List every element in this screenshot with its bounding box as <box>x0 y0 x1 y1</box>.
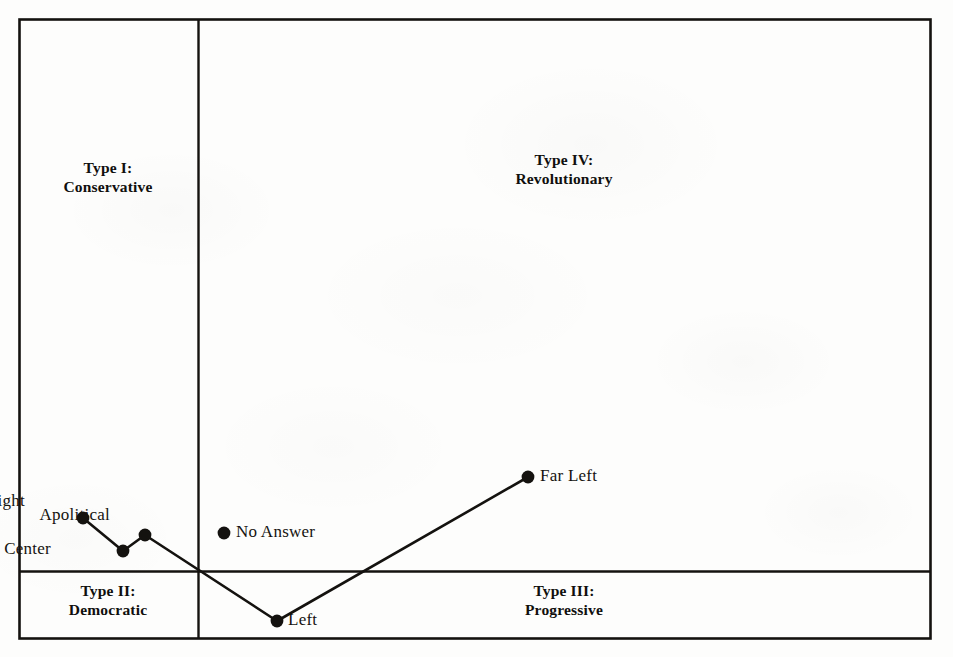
axes-group <box>19 19 930 638</box>
data-point-marker <box>271 615 284 628</box>
data-point-marker <box>117 545 130 558</box>
quadrant-label-line1: Type II: <box>69 581 147 600</box>
quadrant-label-line1: Type IV: <box>515 150 612 169</box>
data-point-marker <box>139 529 152 542</box>
data-point-label: Far Left <box>540 466 597 486</box>
quadrant-label-line2: Revolutionary <box>515 169 612 188</box>
data-point-label: Center <box>4 539 51 559</box>
quadrant-label-type-2: Type II:Democratic <box>69 581 147 619</box>
series-0-polyline <box>83 477 528 621</box>
data-point-marker <box>218 527 231 540</box>
data-point-label: Apolitical <box>39 505 110 525</box>
frame-group <box>20 20 931 639</box>
outer-frame <box>20 20 931 639</box>
quadrant-label-type-1: Type I:Conservative <box>63 158 152 196</box>
data-point-label: No Answer <box>236 522 315 542</box>
data-polyline-group <box>83 477 528 621</box>
quadrant-scatter-figure: Type I:ConservativeType IV:Revolutionary… <box>0 0 953 657</box>
quadrant-label-line2: Conservative <box>63 177 152 196</box>
quadrant-label-line1: Type I: <box>63 158 152 177</box>
quadrant-label-line2: Progressive <box>525 600 603 619</box>
quadrant-label-line2: Democratic <box>69 600 147 619</box>
data-point-marker <box>522 471 535 484</box>
plot-canvas <box>0 0 953 657</box>
data-point-label: Left <box>288 610 317 630</box>
quadrant-label-line1: Type III: <box>525 581 603 600</box>
quadrant-label-type-3: Type III:Progressive <box>525 581 603 619</box>
quadrant-label-type-4: Type IV:Revolutionary <box>515 150 612 188</box>
data-point-label: Right <box>0 491 25 511</box>
